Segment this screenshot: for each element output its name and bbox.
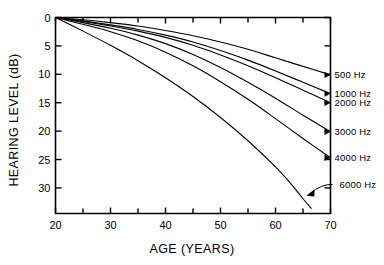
series-label-6000-hz: 6000 Hz	[340, 179, 377, 190]
hearing-level-chart: 203040506070 051015202530 500 Hz1000 Hz2…	[0, 0, 384, 265]
y-tick-label: 5	[44, 40, 50, 52]
y-tick-label: 10	[38, 68, 50, 80]
x-tick-label: 60	[269, 219, 281, 231]
x-tick-label: 70	[324, 219, 336, 231]
x-tick-label: 20	[49, 219, 61, 231]
chart-canvas: 203040506070 051015202530 500 Hz1000 Hz2…	[0, 0, 384, 265]
series-label-500-hz: 500 Hz	[335, 69, 366, 80]
y-tick-label: 25	[38, 154, 50, 166]
y-tick-label: 15	[38, 97, 50, 109]
y-tick-label: 20	[38, 125, 50, 137]
series-label-4000-hz: 4000 Hz	[335, 152, 372, 163]
y-tick-label: 0	[44, 12, 50, 24]
series-label-2000-hz: 2000 Hz	[335, 97, 372, 108]
x-tick-label: 50	[214, 219, 226, 231]
y-tick-label: 30	[38, 182, 50, 194]
x-tick-label: 30	[104, 219, 116, 231]
x-tick-label: 40	[159, 219, 171, 231]
x-axis-title: AGE (YEARS)	[150, 242, 235, 256]
series-label-3000-hz: 3000 Hz	[335, 126, 372, 137]
y-axis-title: HEARING LEVEL (dB)	[7, 53, 21, 186]
